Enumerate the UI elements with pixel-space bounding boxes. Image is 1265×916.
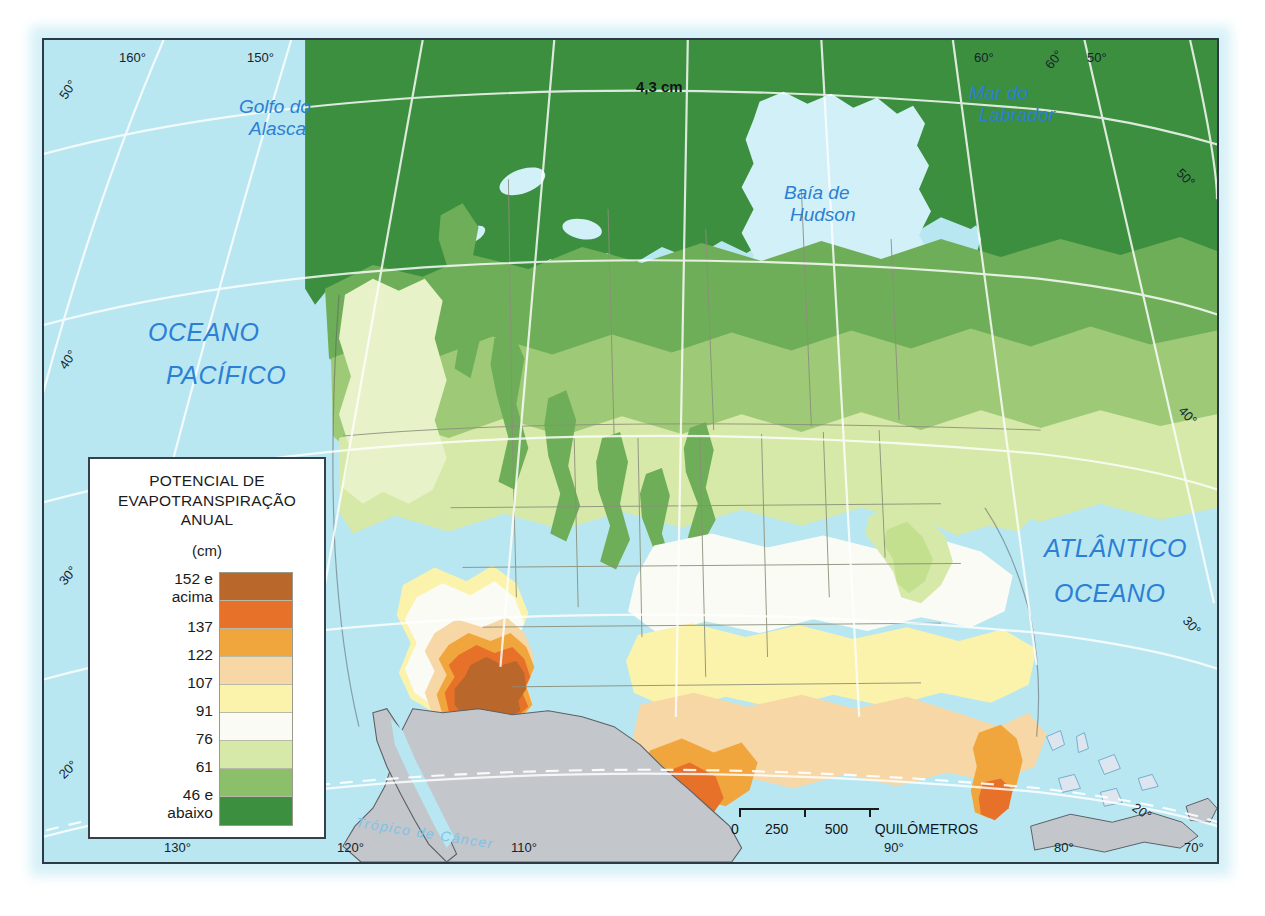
map-page: Golfo do Alasca Baía de Hudson Mar do La… bbox=[0, 0, 1265, 916]
zone-76-white-central bbox=[628, 534, 1013, 636]
legend-title-line3: ANUAL bbox=[98, 510, 316, 530]
scale-tick-250 bbox=[804, 808, 806, 817]
legend-swatch-46 bbox=[220, 769, 292, 797]
scale-bar-line bbox=[739, 808, 879, 810]
legend-label-column: 152 e acima 137 122 107 91 76 61 46 e ab… bbox=[107, 572, 213, 824]
zone-pale-bc bbox=[339, 279, 447, 504]
legend-label-122: 122 bbox=[187, 646, 213, 664]
legend-title: POTENCIAL DE EVAPOTRANSPIRAÇÃO ANUAL bbox=[98, 471, 316, 530]
deg-top-160: 160° bbox=[119, 50, 146, 65]
deg-top-50: 50° bbox=[1087, 50, 1107, 65]
legend-swatch-152 bbox=[220, 573, 292, 601]
legend-label-61: 61 bbox=[196, 758, 213, 776]
legend-swatch-137 bbox=[220, 601, 292, 629]
legend-title-line2: EVAPOTRANSPIRAÇÃO bbox=[98, 491, 316, 511]
scale-label-0: 0 bbox=[731, 821, 761, 837]
scale-tick-500 bbox=[869, 808, 871, 817]
legend-label-137: 137 bbox=[187, 618, 213, 636]
legend-swatch-61 bbox=[220, 741, 292, 769]
legend-label-91: 91 bbox=[196, 702, 213, 720]
legend-swatch-122 bbox=[220, 629, 292, 657]
legend-swatch-107 bbox=[220, 657, 292, 685]
legend-unit: (cm) bbox=[98, 542, 316, 559]
scale-unit-label: QUILÔMETROS bbox=[875, 821, 978, 837]
legend-swatch-91 bbox=[220, 685, 292, 713]
legend-title-line1: POTENCIAL DE bbox=[98, 471, 316, 491]
legend-scale: 152 e acima 137 122 107 91 76 61 46 e ab… bbox=[107, 572, 307, 824]
legend-swatch-76 bbox=[220, 713, 292, 741]
legend-label-76: 76 bbox=[196, 730, 213, 748]
legend-panel: POTENCIAL DE EVAPOTRANSPIRAÇÃO ANUAL (cm… bbox=[88, 457, 326, 839]
deg-bottom-120: 120° bbox=[337, 840, 364, 855]
deg-bottom-80: 80° bbox=[1054, 840, 1074, 855]
legend-swatch-below bbox=[220, 797, 292, 825]
deg-top-150: 150° bbox=[247, 50, 274, 65]
legend-label-46: 46 e abaixo bbox=[167, 786, 213, 823]
scale-bar: 0 250 500 QUILÔMETROS bbox=[731, 800, 946, 846]
deg-top-60a: 60° bbox=[974, 50, 994, 65]
scale-label-250: 250 bbox=[765, 821, 821, 837]
scale-tick-0 bbox=[739, 808, 741, 817]
legend-label-152: 152 e acima bbox=[172, 570, 213, 607]
legend-swatch-column bbox=[219, 572, 293, 826]
deg-bottom-110: 110° bbox=[511, 840, 537, 855]
scale-label-500: 500 bbox=[825, 821, 871, 837]
legend-label-107: 107 bbox=[187, 674, 213, 692]
deg-bottom-130: 130° bbox=[164, 840, 191, 855]
scale-bar-labels: 0 250 500 QUILÔMETROS bbox=[731, 821, 978, 837]
deg-bottom-70: 70° bbox=[1184, 840, 1204, 855]
